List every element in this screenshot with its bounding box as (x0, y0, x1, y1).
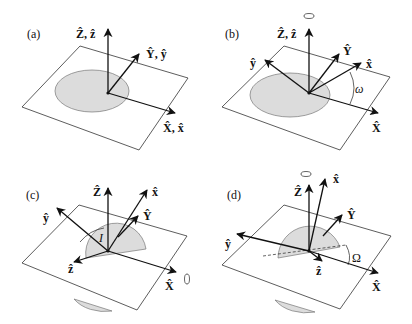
omega-arc (350, 72, 354, 104)
Y-label: Ŷ (343, 44, 352, 58)
z-label: Ẑ, ẑ (277, 27, 297, 41)
omega-label: ω (355, 82, 363, 96)
origin-dot (307, 249, 310, 252)
panel-a: (a) Ẑ, ẑ Ŷ, ŷ X̂, x̂ (22, 27, 188, 150)
X-label: X̂ (372, 121, 381, 135)
Z-label: Ẑ (294, 185, 302, 199)
y-hat-label: ŷ (43, 211, 49, 225)
Omega-label: Ω (352, 251, 361, 265)
origin-dot (307, 91, 310, 94)
reference-plane (222, 205, 391, 309)
orbit-disc-lower (275, 300, 315, 313)
panel-b: (b) Ẑ, ẑ Ŷ ŷ x̂ X̂ ω (222, 14, 390, 151)
origin-dot (106, 91, 109, 94)
orbit-disc-lower (74, 299, 112, 312)
Z-label: Ẑ (93, 185, 101, 199)
Y-label: Ŷ (143, 209, 152, 223)
y-hat-label: ŷ (250, 56, 256, 70)
orbit-rotation-diagram: (a) Ẑ, ẑ Ŷ, ŷ X̂, x̂ (b) Ẑ, ẑ Ŷ ŷ x̂ X̂ … (0, 0, 412, 324)
panel-c: (c) Ẑ x̂ Ŷ ŷ ẑ X̂ I (22, 185, 190, 312)
rotation-icon (301, 172, 311, 177)
panel-tag: (a) (27, 27, 40, 41)
x-hat-label: x̂ (152, 185, 158, 199)
x-label: X̂, x̂ (163, 121, 184, 135)
X-label: X̂ (372, 280, 381, 294)
panel-tag: (c) (26, 188, 39, 202)
rotation-icon (185, 274, 190, 284)
rotation-icon (304, 14, 314, 19)
panel-tag: (b) (225, 27, 239, 41)
panel-tag: (d) (227, 188, 241, 202)
z-hat-label: ẑ (316, 264, 322, 278)
z-hat-label: ẑ (68, 262, 74, 276)
x-hat-label: x̂ (366, 57, 372, 71)
y-label: Ŷ, ŷ (146, 47, 167, 61)
y-hat-label: ŷ (225, 237, 231, 251)
orbit-disc (55, 70, 129, 112)
X-label: X̂ (165, 279, 174, 293)
x-hat-arrow (309, 63, 361, 93)
origin-dot (106, 249, 109, 252)
panel-d: (d) Ẑ x̂ Ŷ ŷ ẑ X̂ Ω (222, 172, 391, 313)
x-hat-label: x̂ (333, 172, 339, 186)
z-label: Ẑ, ẑ (76, 27, 96, 41)
Y-label: Ŷ (347, 208, 356, 222)
